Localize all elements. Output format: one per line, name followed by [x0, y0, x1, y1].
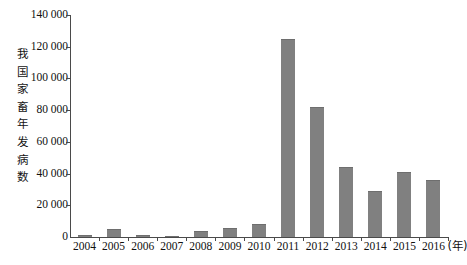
- y-axis-tick-mark: [66, 78, 70, 79]
- bar: [165, 236, 179, 238]
- y-axis-tick-mark: [66, 205, 70, 206]
- x-axis-tick-label: 2005: [102, 240, 125, 253]
- bar: [397, 172, 411, 237]
- y-axis-tick-label: 100 000: [12, 72, 68, 84]
- x-axis-tick-label: 2007: [160, 240, 183, 253]
- bar: [107, 229, 121, 237]
- x-axis-tick-label: 2009: [218, 240, 241, 253]
- x-axis-tick-label: 2010: [248, 240, 271, 253]
- bar: [194, 231, 208, 237]
- x-axis-unit-label: (年): [447, 240, 467, 253]
- y-axis-tick-label: 80 000: [12, 104, 68, 116]
- y-axis-tick-label: 120 000: [12, 41, 68, 53]
- x-axis-tick-label: 2013: [335, 240, 358, 253]
- x-axis-tick-label: 2008: [189, 240, 212, 253]
- x-axis-tick-label: 2011: [277, 240, 300, 253]
- x-axis-tick-labels: 2004200520062007200820092010201120122013…: [70, 240, 455, 260]
- y-axis-tick-mark: [66, 142, 70, 143]
- plot-area: [70, 15, 448, 237]
- y-axis-tick-label: 40 000: [12, 168, 68, 180]
- x-axis-line: [70, 237, 448, 238]
- bar: [339, 167, 353, 237]
- x-axis-tick-label: 2004: [73, 240, 96, 253]
- y-axis-tick-label: 20 000: [12, 199, 68, 211]
- x-axis-tick-label: 2014: [364, 240, 387, 253]
- x-axis-tick-label: 2006: [131, 240, 154, 253]
- y-axis-tick-label: 140 000: [12, 9, 68, 21]
- bar: [136, 235, 150, 237]
- y-axis-tick-mark: [66, 110, 70, 111]
- bar: [368, 191, 382, 237]
- bar: [281, 39, 295, 237]
- x-axis-tick-label: 2016: [422, 240, 445, 253]
- bar: [426, 180, 440, 237]
- bar: [223, 228, 237, 237]
- y-axis-tick-labels: 020 00040 00060 00080 000100 000120 0001…: [8, 0, 68, 265]
- y-axis-tick-label: 60 000: [12, 136, 68, 148]
- bar: [310, 107, 324, 237]
- bar: [252, 224, 266, 237]
- y-axis-tick-label: 0: [12, 231, 68, 243]
- x-axis-tick-label: 2012: [306, 240, 329, 253]
- y-axis-tick-mark: [66, 174, 70, 175]
- x-axis-tick-label: 2015: [393, 240, 416, 253]
- bar: [78, 235, 92, 237]
- y-axis-tick-mark: [66, 47, 70, 48]
- y-axis-tick-mark: [66, 15, 70, 16]
- bars-layer: [70, 15, 448, 237]
